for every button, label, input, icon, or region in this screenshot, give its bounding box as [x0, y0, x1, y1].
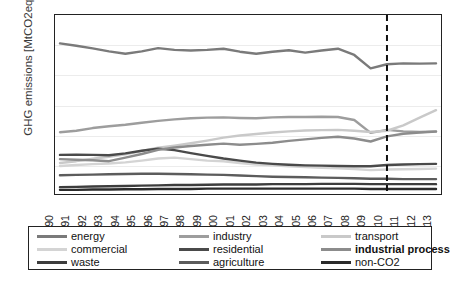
legend-swatch-icon — [179, 261, 209, 264]
legend-swatch-icon — [37, 235, 67, 238]
legend-item-transport[interactable]: transport — [321, 231, 450, 242]
legend-label: residential — [213, 244, 263, 255]
legend-swatch-icon — [321, 261, 351, 264]
legend-item-agriculture[interactable]: agriculture — [179, 257, 321, 268]
chart-figure: GHG emissions [MtCO2eq] 0100200300400500… — [0, 0, 452, 287]
chart-legend: energyindustrytransportcommercialresiden… — [28, 226, 432, 270]
legend-item-residential[interactable]: residential — [179, 244, 321, 255]
legend-label: agriculture — [213, 257, 264, 268]
series-line-waste — [60, 184, 436, 187]
legend-label: industry — [213, 231, 252, 242]
series-line-agriculture — [60, 174, 436, 179]
y-axis-title: GHG emissions [MtCO2eq] — [22, 0, 34, 156]
plot-area — [54, 14, 442, 195]
legend-swatch-icon — [37, 261, 67, 264]
legend-label: non-CO2 — [355, 257, 400, 268]
series-lines — [55, 15, 441, 194]
legend-item-industry[interactable]: industry — [179, 231, 321, 242]
legend-swatch-icon — [321, 235, 351, 238]
legend-label: industrial process — [355, 244, 450, 255]
legend-label: waste — [71, 257, 100, 268]
legend-item-commercial[interactable]: commercial — [37, 244, 179, 255]
legend-swatch-icon — [179, 235, 209, 238]
legend-label: transport — [355, 231, 398, 242]
legend-label: energy — [71, 231, 105, 242]
legend-swatch-icon — [321, 248, 351, 251]
legend-item-industrial-process[interactable]: industrial process — [321, 244, 450, 255]
legend-swatch-icon — [37, 248, 67, 251]
legend-swatch-icon — [179, 248, 209, 251]
legend-item-energy[interactable]: energy — [37, 231, 179, 242]
series-line-non-CO2 — [60, 189, 436, 190]
legend-item-waste[interactable]: waste — [37, 257, 179, 268]
series-line-energy — [60, 43, 436, 68]
legend-item-non-CO2[interactable]: non-CO2 — [321, 257, 450, 268]
legend-label: commercial — [71, 244, 127, 255]
